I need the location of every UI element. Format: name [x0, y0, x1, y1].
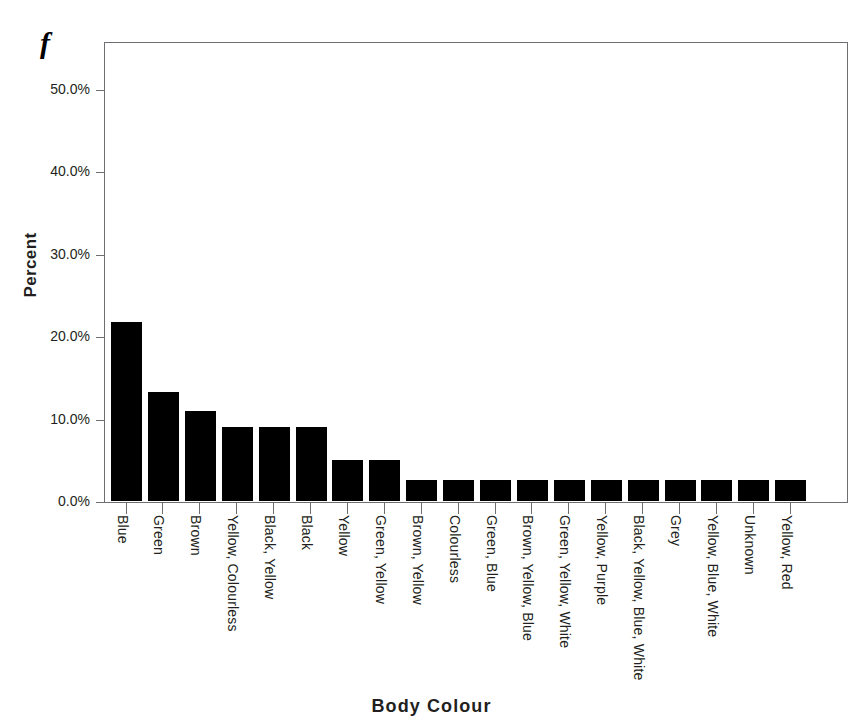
x-axis-category-label: Green, Blue [484, 515, 500, 592]
x-axis-tick [679, 503, 680, 514]
x-axis-tick [421, 503, 422, 514]
x-axis-category-label: Colourless [447, 515, 463, 583]
bar [258, 426, 291, 502]
y-axis-tick-label: 50.0% [28, 81, 90, 97]
x-axis-category-label: Black, Yellow [262, 515, 278, 599]
x-axis-category-label: Yellow, Colourless [225, 515, 241, 632]
bar [147, 391, 180, 502]
x-axis-category-label: Brown [188, 515, 204, 556]
x-axis-category-label: Yellow, Purple [594, 515, 610, 605]
y-axis-tick [96, 172, 105, 173]
bar [221, 426, 254, 502]
bar [368, 459, 401, 502]
bar [184, 410, 217, 502]
x-axis-category-labels: BlueGreenBrownYellow, ColourlessBlack, Y… [104, 515, 848, 695]
bar [442, 479, 475, 502]
x-axis-category-label: Yellow, Blue, White [705, 515, 721, 637]
figure-panel: f Percent 0.0%10.0%20.0%30.0%40.0%50.0% … [0, 0, 863, 722]
y-axis-tick-labels: 0.0%10.0%20.0%30.0%40.0%50.0% [28, 0, 90, 722]
x-axis-tick [790, 503, 791, 514]
x-axis-category-label: Green, Yellow [373, 515, 389, 604]
bar [700, 479, 733, 502]
x-axis-category-label: Blue [115, 515, 131, 544]
x-axis-category-label: Green [151, 515, 167, 555]
bar [774, 479, 807, 502]
x-axis-tick [458, 503, 459, 514]
x-axis-tick [126, 503, 127, 514]
bar [479, 479, 512, 502]
y-axis-tick [96, 90, 105, 91]
y-axis-tick [96, 255, 105, 256]
x-axis-tick [753, 503, 754, 514]
bar [331, 459, 364, 502]
x-axis-tick [162, 503, 163, 514]
bar [664, 479, 697, 502]
x-axis-tick [568, 503, 569, 514]
x-axis-category-label: Black, Yellow, Blue, White [631, 515, 647, 681]
x-axis-title: Body Colour [0, 696, 863, 717]
x-axis-category-label: Yellow, Red [779, 515, 795, 590]
y-axis-tick-label: 0.0% [28, 493, 90, 509]
x-axis-tick [605, 503, 606, 514]
x-axis-tick [347, 503, 348, 514]
x-axis-category-label: Yellow [336, 515, 352, 556]
x-axis-category-label: Grey [668, 515, 684, 546]
bar-series [104, 42, 848, 502]
y-axis-tick [96, 337, 105, 338]
x-axis-tick [236, 503, 237, 514]
bar [295, 426, 328, 502]
x-axis-tick [531, 503, 532, 514]
y-axis-tick-label: 40.0% [28, 163, 90, 179]
x-axis-tick [273, 503, 274, 514]
y-axis-tick-label: 10.0% [28, 411, 90, 427]
x-axis-category-label: Unknown [742, 515, 758, 575]
bar [590, 479, 623, 502]
x-axis-category-label: Black [299, 515, 315, 550]
bar [553, 479, 586, 502]
x-axis-ticks [104, 503, 848, 515]
x-axis-tick [716, 503, 717, 514]
x-axis-tick [384, 503, 385, 514]
x-axis-tick [310, 503, 311, 514]
bar [405, 479, 438, 502]
y-axis-tick-label: 30.0% [28, 246, 90, 262]
y-axis-tick [96, 502, 105, 503]
x-axis-tick [495, 503, 496, 514]
bar [516, 479, 549, 502]
y-axis-tick [96, 420, 105, 421]
x-axis-category-label: Brown, Yellow, Blue [520, 515, 536, 641]
bar [627, 479, 660, 502]
bar [110, 321, 143, 502]
x-axis-category-label: Brown, Yellow [410, 515, 426, 605]
bar [737, 479, 770, 502]
x-axis-tick [642, 503, 643, 514]
y-axis-tick-label: 20.0% [28, 328, 90, 344]
x-axis-category-label: Green, Yellow, White [557, 515, 573, 648]
x-axis-tick [199, 503, 200, 514]
